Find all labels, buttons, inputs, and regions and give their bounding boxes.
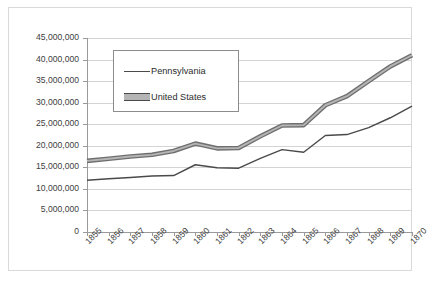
legend-label-pennsylvania: Pennsylvania <box>151 65 206 77</box>
chart-legend: Pennsylvania United States <box>113 50 239 112</box>
y-axis-tick-label: 20,000,000 <box>9 141 79 150</box>
legend-label-united-states: United States <box>151 91 206 103</box>
legend-item-united-states[interactable]: United States <box>124 91 206 103</box>
y-axis-tick-label: 10,000,000 <box>9 184 79 193</box>
chart-frame: 05,000,00010,000,00015,000,00020,000,000… <box>8 7 412 271</box>
y-axis-tick-label: 35,000,000 <box>9 76 79 85</box>
legend-item-pennsylvania[interactable]: Pennsylvania <box>124 65 206 77</box>
y-axis-tick-label: 45,000,000 <box>9 33 79 42</box>
thick-band-swatch-icon <box>124 93 150 101</box>
y-axis-tick-label: 25,000,000 <box>9 119 79 128</box>
y-axis-tick-label: 40,000,000 <box>9 55 79 64</box>
y-axis-tick-label: 30,000,000 <box>9 98 79 107</box>
y-axis-tick-label: 15,000,000 <box>9 162 79 171</box>
y-axis-tick-label: 0 <box>9 227 79 236</box>
thin-line-swatch-icon <box>124 71 150 72</box>
y-axis-tick-label: 5,000,000 <box>9 205 79 214</box>
